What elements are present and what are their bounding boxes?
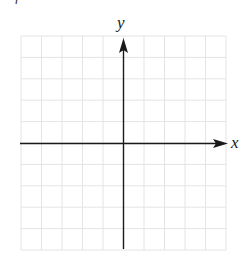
cropped-glyph: ƒ (14, 0, 21, 5)
grid-svg (0, 0, 243, 261)
coordinate-plane: ƒ y x (0, 0, 243, 261)
y-axis-label: y (117, 14, 125, 31)
x-axis-label: x (231, 134, 239, 151)
